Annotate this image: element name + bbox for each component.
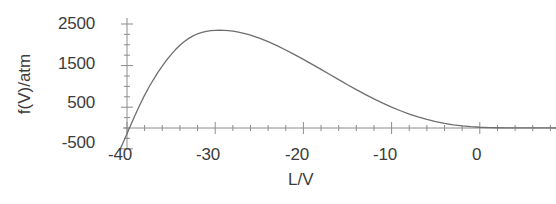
x-tick-label: -40 — [108, 145, 132, 165]
y-tick-label: 1500 — [58, 54, 95, 74]
x-axis-title: L/V — [288, 170, 314, 190]
tick-marks-group — [121, 24, 550, 149]
y-tick-label: 500 — [67, 93, 95, 113]
axes-group — [123, 18, 556, 149]
chart-figure: 2500 1500 500 -500 -40 -30 -20 -10 0 L/V… — [0, 0, 556, 204]
y-axis-title-text: f(V)/atm — [15, 54, 35, 114]
x-tick-label: -10 — [373, 145, 397, 165]
x-tick-label: 0 — [472, 145, 481, 165]
y-tick-label: 2500 — [58, 14, 95, 34]
x-tick-label: -20 — [285, 145, 309, 165]
y-axis-title: f(V)/atm — [14, 38, 36, 130]
data-series-line — [120, 30, 556, 149]
x-tick-label: -30 — [196, 145, 220, 165]
y-tick-label: -500 — [62, 133, 95, 153]
